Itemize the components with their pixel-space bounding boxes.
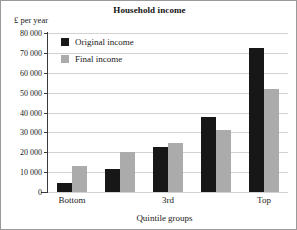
bar-original-income	[57, 183, 72, 192]
y-tick-mark	[44, 113, 48, 114]
bar-final-income	[72, 166, 87, 192]
bar-group	[201, 33, 231, 192]
y-tick-mark	[44, 192, 48, 193]
legend-item: Original income	[61, 37, 134, 47]
y-tick-mark	[44, 33, 48, 34]
legend-item: Final income	[61, 54, 134, 64]
y-axis-label: £ per year	[14, 15, 48, 25]
legend-label: Final income	[75, 54, 122, 64]
gridline	[48, 192, 288, 193]
y-tick-mark	[44, 53, 48, 54]
bar-final-income	[168, 143, 183, 192]
y-tick-mark	[44, 93, 48, 94]
bar-original-income	[105, 169, 120, 192]
bar-original-income	[153, 147, 168, 192]
x-tick-label: Bottom	[42, 195, 102, 205]
legend-swatch-icon	[61, 55, 69, 63]
bar-original-income	[249, 48, 264, 192]
x-axis-title: Quintile groups	[41, 213, 288, 223]
x-tick-label: 3rd	[138, 195, 198, 205]
bar-group	[153, 33, 183, 192]
legend-label: Original income	[75, 37, 134, 47]
y-tick-mark	[44, 152, 48, 153]
bar-final-income	[120, 152, 135, 192]
bar-final-income	[216, 130, 231, 192]
chart-figure: Household income £ per year 010 00020 00…	[0, 0, 297, 230]
bar-group	[249, 33, 279, 192]
bar-original-income	[201, 117, 216, 192]
chart-title: Household income	[1, 5, 297, 15]
legend-swatch-icon	[61, 38, 69, 46]
y-tick-mark	[44, 132, 48, 133]
bar-final-income	[264, 89, 279, 192]
y-tick-mark	[44, 73, 48, 74]
y-tick-mark	[44, 172, 48, 173]
chart-legend: Original incomeFinal income	[61, 37, 134, 71]
x-tick-label: Top	[234, 195, 294, 205]
